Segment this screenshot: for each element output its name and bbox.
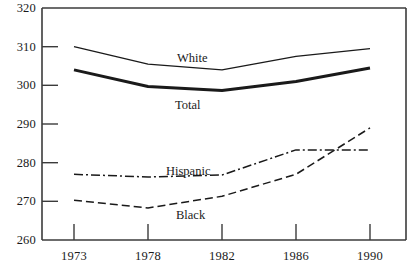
y-tick-label-320: 320	[2, 1, 36, 16]
y-tick-label-290: 290	[2, 117, 36, 132]
axis-frame	[42, 8, 406, 240]
y-tick-label-310: 310	[2, 40, 36, 55]
x-tick-label-1982: 1982	[197, 249, 247, 264]
x-tick-label-1973: 1973	[49, 249, 99, 264]
series-label-total: Total	[175, 98, 201, 113]
y-tick-label-300: 300	[2, 78, 36, 93]
y-tick-label-270: 270	[2, 194, 36, 209]
series-line-black	[74, 128, 370, 208]
x-tick-label-1978: 1978	[123, 249, 173, 264]
series-line-hispanic	[74, 150, 370, 177]
series-label-black: Black	[176, 208, 205, 223]
line-chart: 320 310 300 290 280 270 260 1973 1978 19…	[0, 0, 415, 276]
chart-plot-area	[0, 0, 415, 276]
y-axis-ticks	[42, 47, 58, 202]
y-tick-label-260: 260	[2, 233, 36, 248]
x-axis-ticks	[74, 224, 370, 240]
x-tick-label-1986: 1986	[271, 249, 321, 264]
y-tick-label-280: 280	[2, 156, 36, 171]
series-line-total	[74, 68, 370, 91]
series-label-hispanic: Hispanic	[166, 164, 210, 179]
x-tick-label-1990: 1990	[345, 249, 395, 264]
series-label-white: White	[177, 51, 208, 66]
series-line-white	[74, 47, 370, 70]
